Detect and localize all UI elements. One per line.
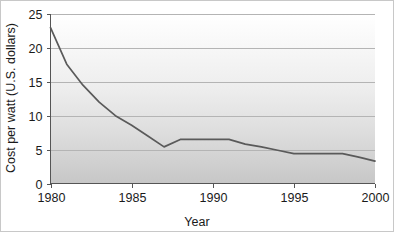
x-tick-label: 1995 [281,191,309,205]
y-tick-label: 15 [29,76,43,90]
chart-figure: 0510152025 19801985199019952000 Year Cos… [0,0,394,232]
y-tick-label: 10 [29,110,43,124]
x-axis-title: Year [184,215,209,229]
x-tick-label: 1985 [119,191,147,205]
y-axis-title: Cost per watt (U.S. dollars) [4,23,18,173]
plot-area-background [50,14,375,183]
x-tick-label: 1990 [200,191,228,205]
x-tick-label: 1980 [38,191,66,205]
line-chart: 0510152025 19801985199019952000 Year Cos… [1,1,393,231]
y-tick-label: 20 [29,42,43,56]
y-tick-label: 25 [29,8,43,22]
x-tick-label: 2000 [362,191,390,205]
y-tick-label: 5 [36,144,43,158]
